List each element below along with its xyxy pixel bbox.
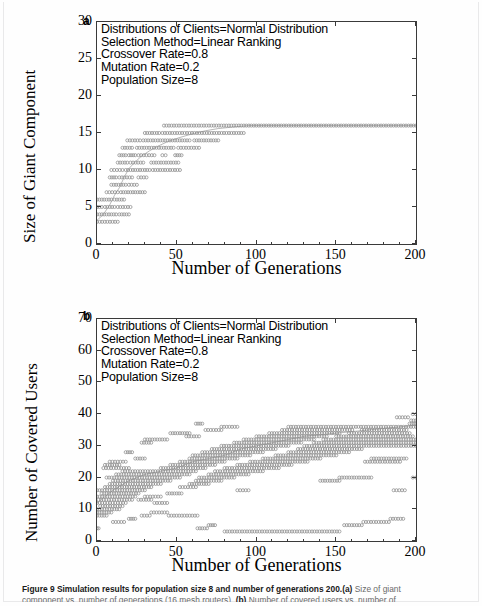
x-tick-minor (383, 539, 384, 542)
x-tick-minor (160, 242, 161, 245)
y-tick-label: 70 (66, 310, 92, 326)
y-tick-right (412, 95, 417, 96)
y-tick-right (412, 169, 417, 170)
y-tick-right (412, 381, 417, 382)
x-tick-minor (144, 539, 145, 542)
y-tick-right (412, 540, 417, 541)
y-tick (96, 445, 101, 446)
x-tick-minor (351, 539, 352, 542)
y-tick-label: 10 (66, 500, 92, 516)
x-tick-minor (112, 539, 113, 542)
panel-a-x-axis-title: Number of Generations (96, 258, 417, 279)
y-tick (96, 169, 101, 170)
panel-a-y-axis-title: Size of Giant Component (20, 70, 40, 243)
panel-a-annotation-line-1: Distributions of Clients=Normal Distribu… (101, 23, 328, 36)
y-tick (96, 508, 101, 509)
y-tick-label: 30 (66, 13, 92, 29)
x-tick-minor (383, 242, 384, 245)
caption-lead: Figure 9 Simulation results for populati… (22, 584, 342, 594)
panel-b-annotation: Distributions of Clients=Normal Distribu… (101, 320, 328, 383)
y-tick-right (412, 413, 417, 414)
y-tick-label: 50 (66, 373, 92, 389)
y-tick-right (412, 445, 417, 446)
y-tick-label: 15 (66, 124, 92, 140)
x-tick-minor (399, 539, 400, 542)
x-tick-minor (319, 539, 320, 542)
x-tick-minor (287, 242, 288, 245)
figure-page: a 050100150200 051015202530 Number of Ge… (0, 0, 482, 606)
x-tick (335, 537, 336, 542)
x-tick-minor (224, 242, 225, 245)
y-tick-right (412, 318, 417, 319)
caption-a-tag: (a) (342, 584, 352, 594)
x-tick-minor (303, 539, 304, 542)
y-tick-right (412, 477, 417, 478)
x-tick-top (335, 21, 336, 26)
x-tick (256, 240, 257, 245)
y-tick-label: 30 (66, 437, 92, 453)
x-tick (256, 537, 257, 542)
panel-b-annotation-line-1: Distributions of Clients=Normal Distribu… (101, 320, 328, 333)
y-tick-label: 60 (66, 342, 92, 358)
x-tick-minor (192, 242, 193, 245)
x-tick (335, 240, 336, 245)
y-tick (96, 413, 101, 414)
panel-a-annotation-line-4: Mutation Rate=0.2 (101, 61, 328, 74)
x-tick-minor (240, 242, 241, 245)
caption-line-2: component vs. number of generations (16 … (22, 595, 464, 602)
y-tick-right (412, 350, 417, 351)
x-tick-minor (287, 539, 288, 542)
y-tick-right (412, 508, 417, 509)
y-tick-right (412, 132, 417, 133)
caption-line2-post: Number of covered users vs. number of (246, 595, 395, 602)
panel-b-annotation-line-5: Population Size=8 (101, 371, 328, 384)
y-tick-label: 10 (66, 161, 92, 177)
x-tick (176, 240, 177, 245)
panel-b-y-axis-title: Number of Covered Users (22, 363, 42, 542)
panel-a-annotation-line-5: Population Size=8 (101, 74, 328, 87)
x-tick-minor (271, 242, 272, 245)
y-tick-label: 0 (66, 532, 92, 548)
y-tick (96, 540, 101, 541)
x-tick-top (335, 318, 336, 323)
caption-b-tag: (b) (236, 595, 247, 602)
y-tick (96, 243, 101, 244)
panel-b-annotation-line-4: Mutation Rate=0.2 (101, 358, 328, 371)
x-tick-minor (399, 242, 400, 245)
x-tick-minor (303, 242, 304, 245)
y-tick-label: 20 (66, 87, 92, 103)
x-tick-minor (319, 242, 320, 245)
x-tick-minor (271, 539, 272, 542)
y-tick-right (412, 58, 417, 59)
x-tick (176, 537, 177, 542)
panel-a-annotation: Distributions of Clients=Normal Distribu… (101, 23, 328, 86)
y-tick (96, 132, 101, 133)
caption-line2-pre: component vs. number of generations (16 … (22, 595, 236, 602)
y-tick-right (412, 21, 417, 22)
x-tick-minor (160, 539, 161, 542)
panel-a: a 050100150200 051015202530 Number of Ge… (0, 0, 482, 290)
x-tick-minor (192, 539, 193, 542)
x-tick-minor (112, 242, 113, 245)
y-tick-right (412, 243, 417, 244)
x-tick-minor (367, 242, 368, 245)
x-tick-minor (367, 539, 368, 542)
panel-b: b 050100150200 010203040506070 Number of… (0, 292, 482, 580)
y-tick-label: 40 (66, 405, 92, 421)
panel-b-x-axis-title: Number of Generations (96, 555, 417, 576)
y-tick-label: 25 (66, 50, 92, 66)
y-tick-right (412, 206, 417, 207)
y-tick (96, 206, 101, 207)
x-tick-minor (128, 242, 129, 245)
y-tick (96, 477, 101, 478)
y-tick-label: 0 (66, 235, 92, 251)
x-tick-minor (208, 242, 209, 245)
y-tick (96, 95, 101, 96)
x-tick-minor (208, 539, 209, 542)
figure-caption: Figure 9 Simulation results for populati… (22, 584, 464, 595)
x-tick-minor (351, 242, 352, 245)
y-tick-label: 5 (66, 198, 92, 214)
y-tick-label: 20 (66, 469, 92, 485)
x-tick-minor (240, 539, 241, 542)
x-tick-minor (128, 539, 129, 542)
